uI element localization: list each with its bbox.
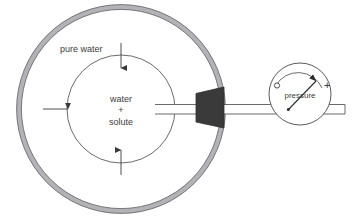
inner-label-plus: + [118, 105, 123, 115]
flux-arrows [43, 43, 121, 175]
membrane-plug [196, 87, 224, 128]
inner-label-solute: solute [109, 117, 133, 127]
gauge-needle-pivot [287, 108, 290, 111]
inner-label-water: water [109, 94, 132, 104]
pure-water-label: pure water [60, 44, 103, 54]
gauge-plus-label: + [324, 79, 330, 91]
gauge-zero-mark [274, 83, 279, 88]
gauge-caption: pressure [284, 91, 316, 100]
pressure-gauge: + pressure [269, 63, 331, 125]
osmosis-diagram: + pressure pure water water + solute [0, 0, 360, 218]
figure-canvas: + pressure pure water water + solute [0, 0, 360, 218]
